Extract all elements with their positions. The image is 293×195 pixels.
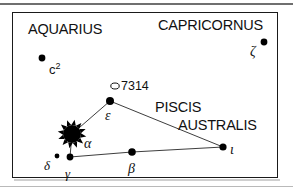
constellation-label-piscis: PISCIS <box>155 100 201 115</box>
bottom-divider-rule <box>0 186 293 187</box>
constellation-label-aquarius: AQUARIUS <box>28 22 102 37</box>
top-divider-rule <box>0 3 293 5</box>
star-chart-figure: 7314αειβγδζc2AQUARIUSCAPRICORNUSPISCISAU… <box>0 0 293 195</box>
star-label-epsilon: ε <box>105 109 111 123</box>
chart-frame-shadow <box>14 179 280 181</box>
star-label-gamma: γ <box>65 167 70 180</box>
star-label-iota: ι <box>230 143 234 157</box>
star-label-beta: β <box>128 162 135 176</box>
field-star-superscript-c2: 2 <box>56 61 61 71</box>
constellation-label-australis: AUSTRALIS <box>178 118 257 133</box>
field-star-label-c2: c2 <box>49 62 61 76</box>
constellation-label-capricornus: CAPRICORNUS <box>158 18 263 33</box>
star-label-zeta: ζ <box>250 45 256 59</box>
star-label-delta: δ <box>44 159 50 172</box>
star-label-alpha: α <box>84 137 91 151</box>
deep-sky-label-ngc7314: 7314 <box>121 80 149 93</box>
